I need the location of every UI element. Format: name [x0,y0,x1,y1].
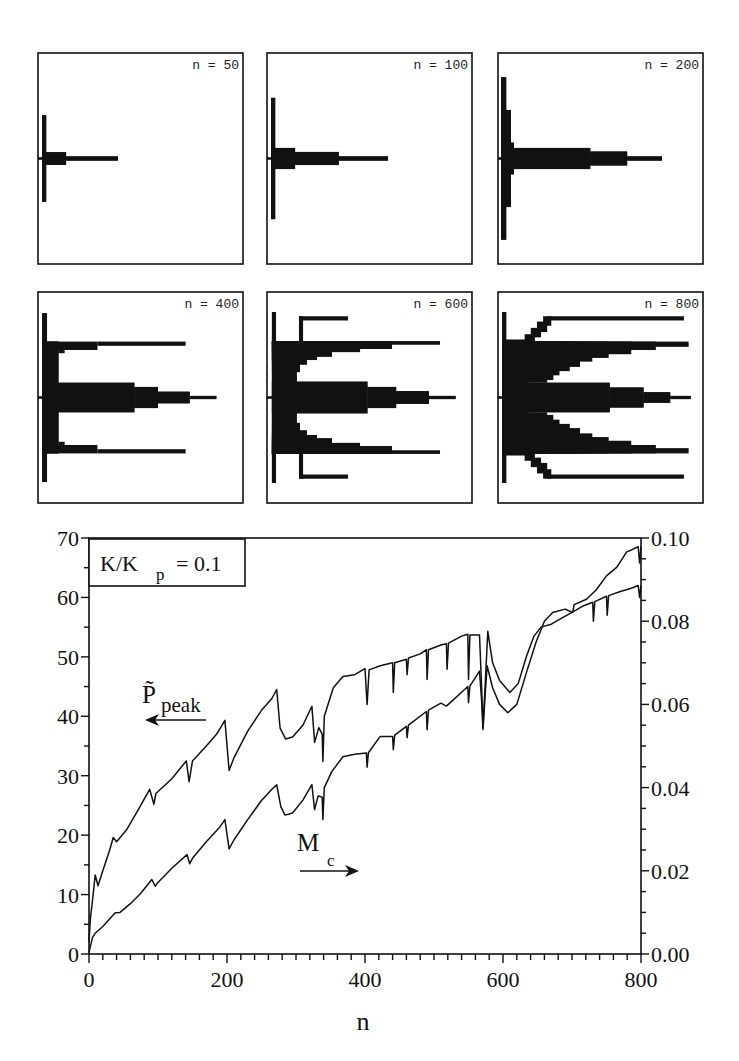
histogram-bar [42,445,97,453]
histogram-bar [644,392,671,403]
histogram-bar [299,316,348,320]
x-tick-label: 600 [487,967,520,992]
histogram-bar [502,383,610,413]
y-right-tick-label: 0.06 [651,692,690,717]
histogram-bar [610,387,644,407]
x-tick-label: 200 [211,967,244,992]
histogram-bar [190,396,217,399]
histogram-bar [42,152,66,165]
x-tick-label: 800 [625,967,658,992]
plot-frame [89,538,641,954]
histogram-bar [272,382,368,414]
ratio-label-subscript: p [156,565,165,584]
y-left-tick-label: 60 [57,585,79,610]
y-left-tick-label: 0 [68,942,79,967]
histogram-bar [158,392,190,404]
histogram-panel: n = 50 [38,53,243,264]
y-left-tick-label: 10 [57,883,79,908]
histogram-bar [396,391,429,404]
x-axis-label: n [357,1007,370,1036]
series-line-m-c [89,546,641,952]
histogram-bar [66,156,118,160]
histogram-bar [134,387,158,408]
histogram-bar [501,148,590,169]
y-right-tick-label: 0.08 [651,609,690,634]
p-peak-label-main: P̃ [142,681,156,708]
histogram-bar [42,342,97,350]
right-y-axis: 0.000.020.040.060.080.10 [641,526,690,967]
x-axis: 0200400600800 [84,954,658,992]
histogram-panels: n = 50n = 100n = 200n = 400n = 600n = 80… [38,53,703,503]
histogram-bar [59,442,65,445]
histogram-bar [295,152,339,165]
histogram-bar [627,156,662,160]
histogram-panel: n = 600 [267,292,472,503]
histogram-bar [271,148,295,169]
y-right-tick-label: 0.00 [651,942,690,967]
panel-label: n = 800 [644,297,699,312]
y-left-tick-label: 40 [57,704,79,729]
y-right-tick-label: 0.04 [651,776,690,801]
histogram-bar [267,396,272,398]
histogram-bar [299,475,348,479]
figure: n = 50n = 100n = 200n = 400n = 600n = 80… [0,0,739,1061]
left-y-axis: 010203040506070 [57,526,89,967]
histogram-panel: n = 800 [498,292,703,503]
histogram-bar [38,396,42,398]
x-tick-label: 400 [349,967,382,992]
y-left-tick-label: 20 [57,823,79,848]
m-c-label-subscript: c [327,851,335,870]
histogram-panel: n = 100 [267,53,472,264]
m-c-annotation: M c [297,829,359,877]
histogram-bar [547,316,684,320]
panel-label: n = 50 [192,58,239,73]
histogram-bar [38,157,42,159]
y-left-tick-label: 70 [57,526,79,551]
histogram-panel: n = 400 [38,292,243,503]
histogram-bar [267,157,271,159]
histogram-bar [429,396,456,399]
histogram-bar [547,475,684,479]
panel-label: n = 400 [184,297,239,312]
histogram-bar [42,383,134,413]
ratio-annotation-box: K/K p = 0.1 [89,539,245,586]
p-peak-label-subscript: peak [161,693,201,717]
panel-label: n = 100 [413,58,468,73]
p-peak-annotation: P̃ peak [142,681,206,726]
histogram-bar [339,156,388,160]
histogram-bar [97,342,185,346]
x-tick-label: 0 [84,967,95,992]
histogram-bar [59,350,65,353]
histogram-bar [670,396,691,399]
m-c-label-main: M [297,829,319,856]
histogram-bar [498,396,502,398]
histogram-bar [97,449,185,453]
panel-label: n = 200 [644,58,699,73]
y-right-tick-label: 0.02 [651,859,690,884]
histogram-bar [498,157,501,159]
y-right-tick-label: 0.10 [651,526,690,551]
ratio-label-value: = 0.1 [176,551,221,576]
series-line-p-peak [89,586,641,943]
y-left-tick-label: 50 [57,645,79,670]
panel-label: n = 600 [413,297,468,312]
histogram-panel: n = 200 [498,53,703,264]
histogram-bar [590,152,627,166]
y-left-tick-label: 30 [57,764,79,789]
ratio-label-main: K/K [100,551,138,576]
histogram-bar [367,387,396,408]
main-line-chart: 0102030405060700.000.020.040.060.080.100… [57,526,690,992]
